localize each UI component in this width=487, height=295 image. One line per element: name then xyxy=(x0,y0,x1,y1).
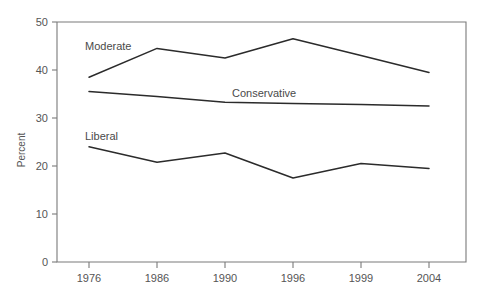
series-label-moderate: Moderate xyxy=(85,40,131,52)
y-axis-title: Percent xyxy=(16,133,27,168)
series-line-liberal xyxy=(89,147,429,178)
y-tick-label-0: 0 xyxy=(42,256,48,268)
x-tick-label-1986: 1986 xyxy=(145,272,169,284)
y-tick-label-50: 50 xyxy=(36,16,48,28)
line-chart: 50 40 30 20 10 0 Percent 1976 1986 1990 … xyxy=(0,0,487,295)
y-axis-ticks xyxy=(52,22,57,262)
series-label-liberal: Liberal xyxy=(85,130,118,142)
series-label-conservative: Conservative xyxy=(232,87,296,99)
x-tick-label-1999: 1999 xyxy=(349,272,373,284)
chart-frame xyxy=(57,22,466,262)
x-axis-tick-labels: 1976 1986 1990 1996 1999 2004 xyxy=(77,272,441,284)
y-tick-label-10: 10 xyxy=(36,208,48,220)
x-axis-ticks xyxy=(89,262,429,268)
y-tick-label-30: 30 xyxy=(36,112,48,124)
y-tick-label-40: 40 xyxy=(36,64,48,76)
y-tick-label-20: 20 xyxy=(36,160,48,172)
chart-canvas: 50 40 30 20 10 0 Percent 1976 1986 1990 … xyxy=(0,0,487,295)
y-axis-tick-labels: 50 40 30 20 10 0 xyxy=(36,16,48,268)
series-line-moderate xyxy=(89,39,429,77)
x-tick-label-1996: 1996 xyxy=(281,272,305,284)
x-tick-label-2004: 2004 xyxy=(417,272,441,284)
x-tick-label-1990: 1990 xyxy=(213,272,237,284)
x-tick-label-1976: 1976 xyxy=(77,272,101,284)
